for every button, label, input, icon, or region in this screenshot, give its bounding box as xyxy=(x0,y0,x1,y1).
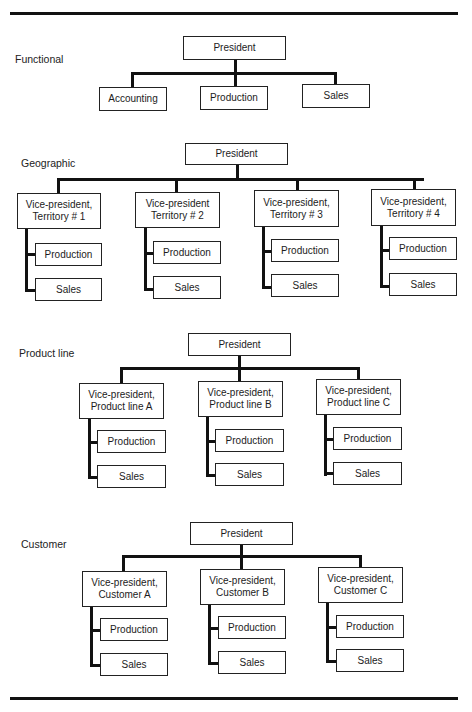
production-box: Production xyxy=(218,616,286,639)
sales-box: Sales xyxy=(97,465,166,488)
sales-box: Sales xyxy=(100,653,168,676)
connector xyxy=(206,417,209,477)
connector xyxy=(208,605,211,665)
connector xyxy=(380,226,383,288)
connector xyxy=(25,253,35,256)
vp-box-customer-a: Vice-president, Customer A xyxy=(82,571,167,607)
connector xyxy=(57,178,424,181)
connector xyxy=(326,660,336,663)
top-rule xyxy=(10,12,458,15)
connector xyxy=(240,555,243,570)
vp-box-product-line-c: Vice-president, Product line C xyxy=(316,379,401,415)
section-label-geographic: Geographic xyxy=(21,157,75,169)
connector xyxy=(324,415,327,476)
vp-box-product-line-b: Vice-president, Product line B xyxy=(198,381,283,417)
sales-box: Sales xyxy=(271,274,339,297)
section-label-product-line: Product line xyxy=(19,347,74,359)
connector xyxy=(131,72,134,87)
vp-box-territory-3: Vice-president, Territory # 3 xyxy=(254,190,339,227)
connector xyxy=(326,603,329,663)
president-box: President xyxy=(185,143,288,165)
unit-box-sales: Sales xyxy=(302,84,370,108)
connector xyxy=(208,627,218,630)
connector xyxy=(234,72,237,86)
section-label-customer: Customer xyxy=(21,538,67,550)
section-label-functional: Functional xyxy=(15,53,63,65)
connector xyxy=(25,229,28,292)
connector xyxy=(175,178,178,193)
production-box: Production xyxy=(215,429,284,452)
sales-box: Sales xyxy=(333,462,402,485)
connector xyxy=(90,607,93,667)
production-box: Production xyxy=(35,243,102,266)
connector xyxy=(57,178,60,194)
president-box: President xyxy=(190,522,293,545)
vp-box-customer-c: Vice-president, Customer C xyxy=(318,567,403,603)
president-box: President xyxy=(188,333,291,356)
connector xyxy=(25,289,35,292)
production-box: Production xyxy=(271,239,339,262)
sales-box: Sales xyxy=(389,273,457,296)
connector xyxy=(144,228,147,291)
connector xyxy=(262,227,265,289)
vp-box-territory-1: Vice-president, Territory # 1 xyxy=(17,193,101,229)
production-box: Production xyxy=(97,430,166,453)
connector xyxy=(90,629,100,632)
connector xyxy=(122,555,125,571)
connector xyxy=(208,662,218,665)
vp-box-territory-4: Vice-president, Territory # 4 xyxy=(371,189,456,226)
vp-box-customer-b: Vice-president, Customer B xyxy=(200,569,285,605)
connector xyxy=(326,626,336,629)
unit-box-accounting: Accounting xyxy=(99,87,167,111)
connector xyxy=(120,367,123,383)
president-box: President xyxy=(183,36,286,60)
vp-box-product-line-a: Vice-president, Product line A xyxy=(79,383,164,419)
sales-box: Sales xyxy=(215,463,284,486)
production-box: Production xyxy=(336,615,404,638)
sales-box: Sales xyxy=(153,276,221,299)
vp-box-territory-2: Vice-president Territory # 2 xyxy=(135,192,220,228)
sales-box: Sales xyxy=(218,651,286,674)
sales-box: Sales xyxy=(336,649,404,672)
bottom-rule xyxy=(10,697,458,700)
production-box: Production xyxy=(389,237,457,260)
production-box: Production xyxy=(153,241,221,264)
connector xyxy=(88,419,91,479)
connector xyxy=(238,367,241,382)
production-box: Production xyxy=(333,427,402,450)
connector xyxy=(90,664,100,667)
sales-box: Sales xyxy=(35,278,102,301)
unit-box-production: Production xyxy=(200,86,268,110)
production-box: Production xyxy=(100,618,168,641)
